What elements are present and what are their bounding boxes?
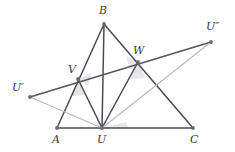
vertex-dot-uprime	[28, 95, 32, 99]
side-BC	[104, 24, 193, 128]
ray-U-Udp	[102, 42, 211, 128]
geometry-figure: ABCUVWU′U″	[0, 0, 235, 152]
ray-Up-U	[30, 97, 102, 128]
vertex-dot-b	[102, 22, 106, 26]
transversal-UpUdp	[30, 42, 211, 97]
point-label-uprime: U′	[12, 82, 24, 93]
point-label-v: V	[68, 64, 76, 75]
vertex-dot-v	[76, 77, 80, 81]
cevian-BU	[102, 24, 104, 128]
vertex-dot-a	[55, 126, 59, 130]
vertex-dot-u	[100, 126, 104, 130]
point-label-b: B	[99, 5, 107, 16]
point-label-a: A	[52, 134, 60, 145]
segments-layer	[30, 24, 211, 128]
vertex-dot-udprime	[209, 40, 213, 44]
cevian-UV	[78, 79, 102, 128]
figure-canvas	[0, 0, 235, 152]
point-label-u: U	[97, 134, 106, 145]
vertex-dot-c	[191, 126, 195, 130]
point-label-w: W	[133, 45, 144, 56]
point-label-udprime: U″	[206, 21, 219, 32]
cevian-UW	[102, 62, 138, 128]
vertex-dot-w	[136, 60, 140, 64]
point-label-c: C	[190, 134, 198, 145]
